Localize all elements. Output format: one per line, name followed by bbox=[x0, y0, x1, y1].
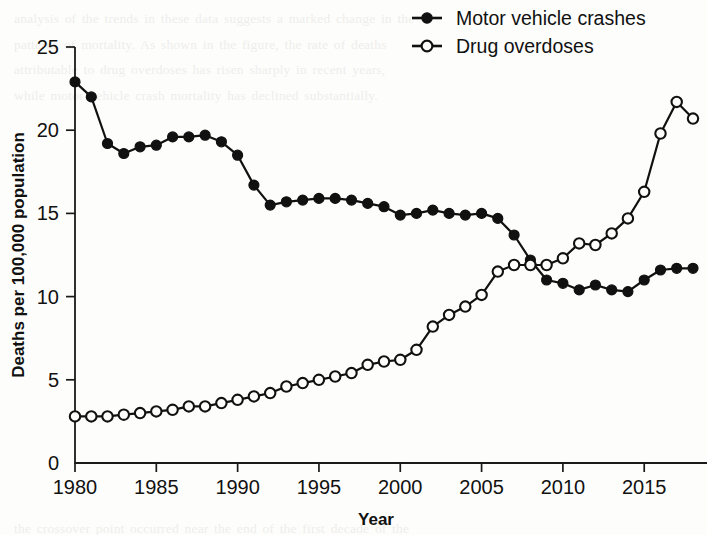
data-point-marker bbox=[151, 406, 161, 416]
data-point-marker bbox=[656, 265, 666, 275]
y-axis-tick-label: 10 bbox=[37, 286, 59, 308]
chart-figure: analysis of the trends in these data sug… bbox=[0, 0, 707, 535]
data-point-marker bbox=[330, 193, 340, 203]
data-point-marker bbox=[119, 149, 129, 159]
y-axis-title: Deaths per 100,000 population bbox=[9, 132, 28, 378]
data-point-marker bbox=[493, 213, 503, 223]
data-point-marker bbox=[477, 208, 487, 218]
data-point-marker bbox=[672, 97, 682, 107]
data-point-marker bbox=[135, 142, 145, 152]
data-point-marker bbox=[330, 371, 340, 381]
data-point-marker bbox=[200, 401, 210, 411]
series-line-drug-overdoses bbox=[75, 102, 693, 417]
data-point-marker bbox=[200, 130, 210, 140]
data-point-marker bbox=[184, 132, 194, 142]
data-point-marker bbox=[623, 213, 633, 223]
data-point-marker bbox=[525, 260, 535, 270]
data-point-marker bbox=[688, 113, 698, 123]
axis-spines bbox=[75, 47, 707, 463]
legend-label: Motor vehicle crashes bbox=[456, 7, 646, 29]
data-point-marker bbox=[623, 287, 633, 297]
data-point-marker bbox=[216, 398, 226, 408]
data-point-marker bbox=[460, 210, 470, 220]
data-point-marker bbox=[249, 391, 259, 401]
data-point-marker bbox=[314, 375, 324, 385]
x-axis-tick-label: 1990 bbox=[215, 476, 260, 498]
data-point-marker bbox=[460, 301, 470, 311]
data-point-marker bbox=[639, 275, 649, 285]
data-point-marker bbox=[135, 408, 145, 418]
data-point-marker bbox=[444, 208, 454, 218]
y-axis-tick-label: 5 bbox=[48, 369, 59, 391]
x-axis-title: Year bbox=[358, 510, 394, 529]
data-point-marker bbox=[363, 198, 373, 208]
data-point-marker bbox=[476, 290, 486, 300]
x-axis-tick-label: 1995 bbox=[297, 476, 342, 498]
x-axis-tick-label: 1980 bbox=[53, 476, 98, 498]
data-point-marker bbox=[379, 356, 389, 366]
plot-area: 0510152025198019851990199520002005201020… bbox=[9, 7, 707, 529]
data-point-marker bbox=[102, 411, 112, 421]
data-point-marker bbox=[493, 266, 503, 276]
data-point-marker bbox=[216, 137, 226, 147]
data-point-marker bbox=[233, 150, 243, 160]
legend-open-circle-icon bbox=[422, 41, 433, 52]
data-point-marker bbox=[151, 140, 161, 150]
data-point-marker bbox=[395, 355, 405, 365]
y-axis-tick-label: 0 bbox=[48, 452, 59, 474]
y-axis-tick-label: 20 bbox=[37, 119, 59, 141]
y-axis-tick-label: 15 bbox=[37, 202, 59, 224]
x-axis-tick-label: 2015 bbox=[622, 476, 667, 498]
data-point-marker bbox=[542, 275, 552, 285]
data-point-marker bbox=[281, 381, 291, 391]
data-point-marker bbox=[411, 345, 421, 355]
y-axis-tick-label: 25 bbox=[37, 36, 59, 58]
data-point-marker bbox=[655, 128, 665, 138]
data-point-marker bbox=[314, 193, 324, 203]
legend-label: Drug overdoses bbox=[456, 35, 594, 57]
data-point-marker bbox=[444, 310, 454, 320]
data-point-marker bbox=[607, 285, 617, 295]
data-point-marker bbox=[70, 411, 80, 421]
data-point-marker bbox=[363, 360, 373, 370]
data-point-marker bbox=[86, 411, 96, 421]
x-axis-tick-label: 2005 bbox=[459, 476, 504, 498]
data-point-marker bbox=[412, 208, 422, 218]
data-point-marker bbox=[428, 205, 438, 215]
x-axis-tick-label: 1985 bbox=[134, 476, 179, 498]
x-axis-tick-label: 2000 bbox=[378, 476, 423, 498]
data-point-marker bbox=[607, 228, 617, 238]
data-point-marker bbox=[574, 285, 584, 295]
data-point-marker bbox=[167, 405, 177, 415]
data-point-marker bbox=[428, 321, 438, 331]
data-point-marker bbox=[119, 410, 129, 420]
data-point-marker bbox=[265, 200, 275, 210]
data-point-marker bbox=[558, 278, 568, 288]
data-point-marker bbox=[590, 240, 600, 250]
data-point-marker bbox=[265, 388, 275, 398]
data-point-marker bbox=[639, 187, 649, 197]
chart-svg: 0510152025198019851990199520002005201020… bbox=[0, 0, 707, 535]
data-point-marker bbox=[232, 395, 242, 405]
x-axis-tick-label: 2010 bbox=[541, 476, 586, 498]
data-point-marker bbox=[395, 210, 405, 220]
data-point-marker bbox=[86, 92, 96, 102]
legend-filled-circle-icon bbox=[422, 13, 432, 23]
data-point-marker bbox=[509, 230, 519, 240]
data-point-marker bbox=[688, 263, 698, 273]
data-point-marker bbox=[168, 132, 178, 142]
data-point-marker bbox=[184, 401, 194, 411]
data-point-marker bbox=[249, 180, 259, 190]
data-point-marker bbox=[509, 260, 519, 270]
data-point-marker bbox=[672, 263, 682, 273]
data-point-marker bbox=[574, 238, 584, 248]
series-line-motor-vehicle-crashes bbox=[75, 82, 693, 292]
data-point-marker bbox=[281, 197, 291, 207]
data-point-marker bbox=[103, 139, 113, 149]
data-point-marker bbox=[590, 280, 600, 290]
data-point-marker bbox=[298, 378, 308, 388]
data-point-marker bbox=[558, 253, 568, 263]
data-point-marker bbox=[541, 260, 551, 270]
data-point-marker bbox=[298, 195, 308, 205]
data-point-marker bbox=[347, 195, 357, 205]
